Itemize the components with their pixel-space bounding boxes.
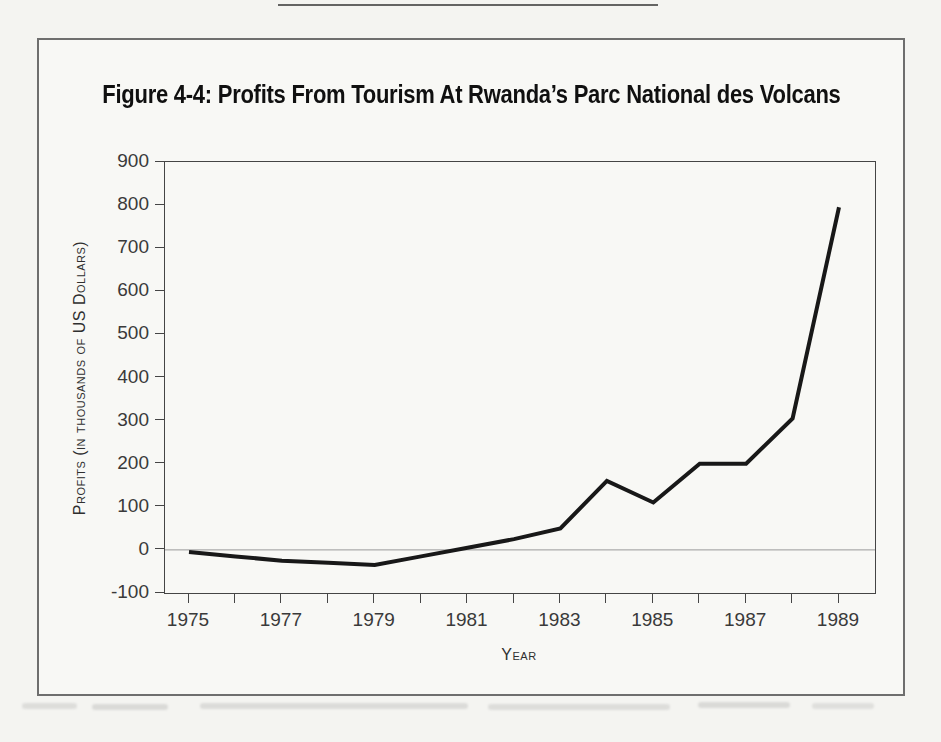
profit-series-line	[189, 207, 839, 565]
y-tick-mark	[155, 290, 164, 291]
y-tick-label: 200	[69, 452, 149, 474]
scan-artifact-smudge	[92, 704, 168, 710]
x-tick-mark	[652, 593, 653, 603]
x-tick-mark	[559, 593, 560, 603]
x-tick-label: 1983	[527, 609, 591, 631]
x-tick-mark	[234, 593, 235, 603]
x-tick-mark	[745, 593, 746, 603]
scan-artifact-smudge	[22, 703, 77, 709]
chart-area: Profits (in thousands of US Dollars) Yea…	[39, 40, 903, 694]
scan-artifact-smudge	[698, 702, 790, 708]
y-tick-mark	[155, 204, 164, 205]
y-tick-label: 500	[69, 322, 149, 344]
y-tick-mark	[155, 505, 164, 506]
x-tick-mark	[791, 593, 792, 603]
x-tick-mark	[373, 593, 374, 603]
x-tick-label: 1987	[713, 609, 777, 631]
y-tick-label: 400	[69, 366, 149, 388]
plot-area	[164, 161, 876, 594]
x-tick-mark	[698, 593, 699, 603]
figure-box: Figure 4-4: Profits From Tourism At Rwan…	[37, 38, 905, 696]
y-tick-mark	[155, 462, 164, 463]
x-tick-mark	[838, 593, 839, 603]
x-tick-mark	[513, 593, 514, 603]
x-tick-label: 1979	[342, 609, 406, 631]
y-tick-label: 300	[69, 409, 149, 431]
x-tick-mark	[605, 593, 606, 603]
scan-artifact-smudge	[812, 703, 874, 709]
y-tick-mark	[155, 548, 164, 549]
y-tick-mark	[155, 419, 164, 420]
x-tick-label: 1989	[806, 609, 870, 631]
y-tick-label: -100	[69, 581, 149, 603]
y-tick-mark	[155, 376, 164, 377]
scanned-page: Figure 4-4: Profits From Tourism At Rwan…	[0, 0, 941, 742]
y-tick-label: 800	[69, 193, 149, 215]
scan-artifact-top-rule	[278, 4, 658, 6]
y-tick-label: 900	[69, 150, 149, 172]
x-tick-mark	[280, 593, 281, 603]
y-tick-label: 700	[69, 236, 149, 258]
x-axis-title: Year	[164, 646, 874, 664]
scan-artifact-smudge	[200, 703, 468, 709]
y-tick-mark	[155, 247, 164, 248]
scan-artifact-smudge	[488, 704, 670, 710]
y-tick-mark	[155, 161, 164, 162]
y-tick-label: 600	[69, 279, 149, 301]
x-tick-mark	[327, 593, 328, 603]
x-tick-label: 1985	[620, 609, 684, 631]
y-tick-mark	[155, 333, 164, 334]
x-tick-label: 1975	[156, 609, 220, 631]
x-tick-label: 1977	[249, 609, 313, 631]
x-tick-mark	[188, 593, 189, 603]
x-tick-mark	[420, 593, 421, 603]
y-tick-label: 0	[69, 538, 149, 560]
y-tick-mark	[155, 592, 164, 593]
profit-line-chart	[165, 162, 875, 593]
x-tick-mark	[466, 593, 467, 603]
x-tick-label: 1981	[435, 609, 499, 631]
y-tick-label: 100	[69, 495, 149, 517]
